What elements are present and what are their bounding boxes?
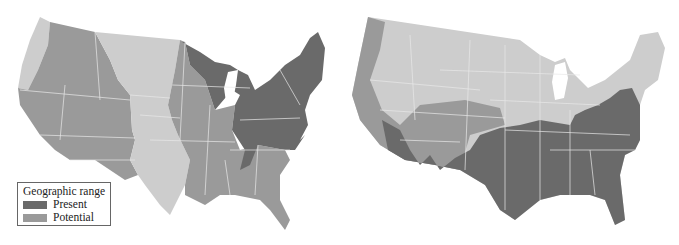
map-panel-right bbox=[340, 10, 679, 235]
legend: Geographic range Present Potential bbox=[17, 182, 111, 226]
legend-item-potential: Potential bbox=[23, 211, 105, 224]
swatch-potential bbox=[23, 214, 47, 222]
legend-label-potential: Potential bbox=[53, 211, 94, 224]
legend-item-present: Present bbox=[23, 198, 105, 211]
legend-label-present: Present bbox=[53, 198, 87, 211]
us-map-right bbox=[340, 10, 679, 235]
swatch-present bbox=[23, 201, 47, 209]
legend-title: Geographic range bbox=[23, 185, 105, 198]
